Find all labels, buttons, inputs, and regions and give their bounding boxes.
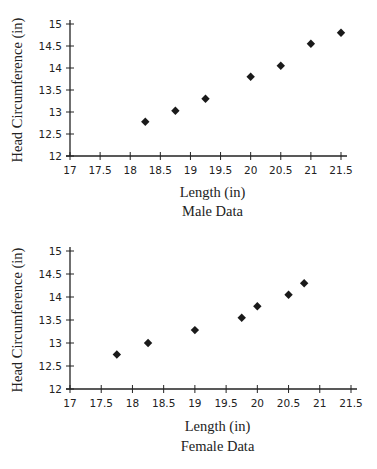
data-point-marker <box>201 95 209 103</box>
x-tick-label: 20 <box>251 397 264 409</box>
male-chart: 1212.51313.51414.5151717.51818.51919.520… <box>0 0 377 234</box>
data-point-marker <box>191 326 199 334</box>
x-tick-label: 20.5 <box>269 164 292 176</box>
x-tick-label: 18.5 <box>149 164 172 176</box>
x-tick-label: 18 <box>124 164 137 176</box>
x-axis-label: Length (in) <box>180 184 246 201</box>
data-point-marker <box>246 73 254 81</box>
x-tick-label: 17 <box>63 164 76 176</box>
y-tick-label: 14.5 <box>39 40 62 52</box>
chart-title: Male Data <box>182 203 243 219</box>
female-chart: 1212.51313.51414.5151717.51818.51919.520… <box>0 235 377 469</box>
x-tick-label: 19 <box>188 397 201 409</box>
data-point-marker <box>141 117 149 125</box>
x-tick-label: 18 <box>126 397 139 409</box>
data-point-marker <box>337 29 345 37</box>
x-tick-label: 17 <box>63 397 76 409</box>
chart-title: Female Data <box>181 438 255 454</box>
y-tick-label: 12 <box>49 150 62 162</box>
y-axis-label: Head Circumference (in) <box>9 247 26 392</box>
data-point-marker <box>300 279 308 287</box>
x-tick-label: 17.5 <box>90 397 113 409</box>
data-point-marker <box>253 302 261 310</box>
x-tick-label: 19 <box>184 164 197 176</box>
data-point-marker <box>113 350 121 358</box>
y-tick-label: 12.5 <box>39 360 62 372</box>
x-tick-label: 20 <box>244 164 257 176</box>
x-tick-label: 17.5 <box>88 164 111 176</box>
data-point-marker <box>171 106 179 114</box>
y-tick-label: 15 <box>49 18 62 30</box>
y-tick-label: 14.5 <box>39 268 62 280</box>
x-tick-label: 19.5 <box>214 397 237 409</box>
female-scatter-plot: 1212.51313.51414.5151717.51818.51919.520… <box>0 235 377 469</box>
x-tick-label: 18.5 <box>152 397 175 409</box>
x-tick-label: 21 <box>304 164 317 176</box>
data-point-marker <box>238 314 246 322</box>
y-tick-label: 13 <box>49 337 62 349</box>
y-tick-label: 13.5 <box>39 84 62 96</box>
y-tick-label: 13.5 <box>39 314 62 326</box>
x-tick-label: 21.5 <box>329 164 352 176</box>
data-point-marker <box>284 291 292 299</box>
x-tick-label: 20.5 <box>277 397 300 409</box>
male-scatter-plot: 1212.51313.51414.5151717.51818.51919.520… <box>0 0 377 230</box>
x-tick-label: 19.5 <box>209 164 232 176</box>
x-axis-label: Length (in) <box>185 418 251 435</box>
y-tick-label: 13 <box>49 106 62 118</box>
y-tick-label: 14 <box>49 62 63 74</box>
y-tick-label: 15 <box>49 245 62 257</box>
data-point-marker <box>307 40 315 48</box>
x-tick-label: 21.5 <box>339 397 362 409</box>
y-axis-label: Head Circumference (in) <box>9 17 26 162</box>
y-tick-label: 12 <box>49 383 62 395</box>
data-point-marker <box>277 62 285 70</box>
data-point-marker <box>144 339 152 347</box>
y-tick-label: 14 <box>49 291 63 303</box>
x-tick-label: 21 <box>313 397 326 409</box>
y-tick-label: 12.5 <box>39 128 62 140</box>
